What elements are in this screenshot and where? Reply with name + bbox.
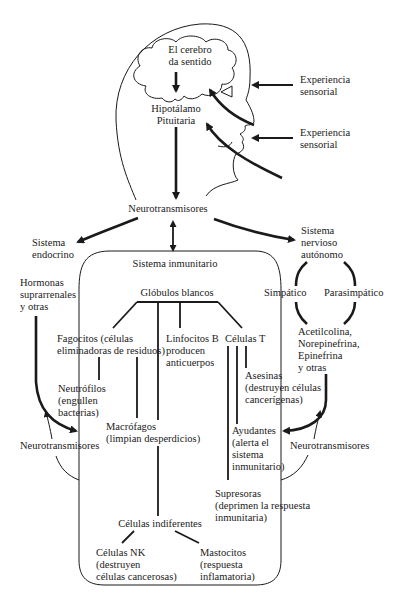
parasympathetic-label: Parasimpático — [324, 287, 383, 298]
nk-cells-label: Células NK — [96, 547, 146, 558]
arc-sympathetic-acetylcholine — [296, 302, 307, 324]
endocrine-label: Sistema — [32, 237, 66, 248]
null-cells-label: Células indiferentes — [118, 518, 202, 529]
norepinephrine-label: Norepinefrina, — [298, 338, 360, 349]
eye-icon — [221, 86, 232, 97]
b-lymphocytes-label-2: producen — [166, 345, 206, 356]
white-cells-label: Glóbulos blancos — [140, 287, 213, 298]
and-others-label: y otras — [298, 362, 326, 373]
neutrophils-label: Neutrófilos — [58, 383, 106, 394]
line-null-nk — [122, 531, 134, 543]
killers-label: Asesinas — [245, 370, 282, 381]
suppressors-label-3: inmunitaria) — [215, 512, 267, 524]
brain-label-2: da sentido — [169, 56, 212, 67]
arc-parasympathetic-acetylcholine — [344, 302, 355, 324]
suppressors-label: Supresoras — [215, 488, 261, 499]
mind-body-diagram: El cerebro da sentido Hipotálamo Pituita… — [0, 0, 395, 602]
macrophages-label: Macrófagos — [106, 421, 156, 432]
mast-cells-label: Mastocitos — [200, 547, 246, 558]
autonomic-label-3: autónomo — [301, 249, 343, 260]
suppressors-label-2: (deprimen la respuesta — [215, 500, 310, 512]
helpers-label-4: inmunitario) — [232, 461, 285, 473]
arrow-to-endocrine — [78, 218, 138, 242]
connector-left-nt-box — [56, 456, 79, 480]
hormones-label: Hormonas — [20, 277, 64, 288]
phagocytes-label-2: eliminadoras de residuos) — [57, 345, 165, 357]
neurotransmitters-right-label: Neurotransmisores — [290, 440, 369, 451]
arc-autonomic-parasympathetic — [344, 262, 355, 286]
t-cells-label: Células T — [225, 333, 266, 344]
b-lymphocytes-label: Linfocitos B — [166, 333, 219, 344]
sensory-2-label: Experiencia — [300, 127, 350, 138]
nk-cells-label-2: (destruyen — [96, 559, 141, 571]
neutrophils-label-2: (engullen — [58, 395, 98, 407]
pituitary-label: Pituitaria — [157, 115, 196, 126]
helpers-label-2: (alerta el — [232, 437, 269, 449]
brain-label: El cerebro — [168, 44, 211, 55]
acetylcholine-label: Acetilcolina, — [298, 326, 352, 337]
hormones-label-3: y otras — [20, 301, 48, 312]
neurotransmitters-left-label: Neurotransmisores — [20, 440, 99, 451]
arrow-mouth-to-brain — [207, 124, 282, 178]
helpers-label-3: sistema — [232, 449, 264, 460]
arc-autonomic-sympathetic — [296, 262, 307, 286]
sympathetic-label: Simpático — [264, 287, 307, 298]
mast-cells-label-2: (respuesta — [200, 559, 243, 571]
sensory-2-label-2: sensorial — [300, 139, 337, 150]
sensory-1-label-2: sensorial — [300, 86, 337, 97]
killers-label-3: cancerígenas) — [245, 394, 303, 406]
neurotransmitters-top-label: Neurotransmisores — [128, 203, 207, 214]
b-lymphocytes-label-3: anticuerpos — [166, 357, 214, 368]
mast-cells-label-3: inflamatoria) — [200, 571, 255, 583]
macrophages-label-2: (limpian desperdicios) — [106, 433, 201, 445]
sensory-1-label: Experiencia — [300, 74, 350, 85]
connector-right-nt-box — [281, 455, 308, 480]
helpers-label: Ayudantes — [232, 425, 276, 436]
hormones-label-2: suprarrenales — [20, 289, 76, 300]
epinephrine-label: Epinefrina — [298, 350, 343, 361]
autonomic-label-2: nervioso — [301, 237, 337, 248]
neutrophils-label-3: bacterias) — [58, 407, 99, 419]
nk-cells-label-3: células cancerosas) — [96, 571, 177, 583]
phagocytes-label: Fagocitos (células — [57, 333, 133, 345]
endocrine-label-2: endocrino — [32, 249, 74, 260]
autonomic-label: Sistema — [301, 225, 335, 236]
hypothalamus-label: Hipotálamo — [151, 103, 201, 114]
killers-label-2: (destruyen células — [245, 382, 321, 394]
arrow-right-nt-up — [314, 412, 320, 439]
immune-system-label: Sistema inmunitario — [133, 258, 218, 269]
arrow-to-autonomic — [214, 219, 294, 240]
line-null-mast — [175, 531, 199, 543]
